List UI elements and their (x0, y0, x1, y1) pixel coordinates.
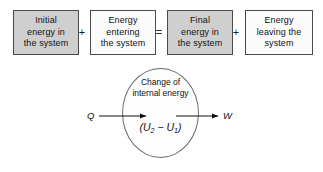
energy-balance-diagram: Initial energy in the system + Energy en… (0, 0, 323, 172)
flow-arrows (0, 0, 323, 172)
work-transfer-label: W (223, 111, 232, 121)
heat-transfer-label: Q (87, 111, 94, 121)
